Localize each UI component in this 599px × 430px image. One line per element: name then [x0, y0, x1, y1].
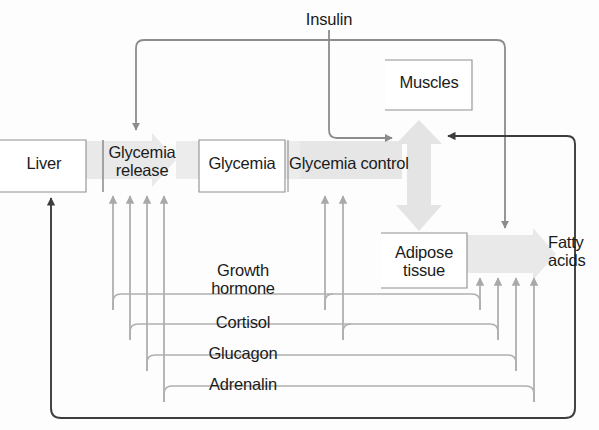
diagram-graphics — [0, 0, 599, 430]
node-label-glycemia-control: Glycemia control — [289, 155, 415, 173]
node-label-glycemia: Glycemia — [199, 155, 285, 173]
hormone-label-insulin: Insulin — [289, 11, 369, 29]
node-label-liver: Liver — [2, 155, 86, 173]
hormone-label-growth-hormone: Growth hormone — [183, 262, 303, 298]
node-label-muscles: Muscles — [386, 74, 472, 92]
band-glycemia-control-vertical — [396, 120, 442, 231]
node-label-fatty-acids: Fatty acids — [548, 234, 599, 270]
node-label-adipose-tissue: Adipose tissue — [381, 244, 467, 280]
arrows-to-glycemia-release — [113, 196, 164, 402]
arrows-to-glycemia-control — [325, 196, 343, 340]
node-label-glycemia-release: Glycemia release — [99, 144, 185, 180]
hormone-branch-to-control — [325, 294, 351, 340]
arrows-to-fatty-acids — [480, 278, 534, 402]
hormone-label-cortisol: Cortisol — [183, 314, 303, 332]
hormone-label-glucagon: Glucagon — [183, 345, 303, 363]
diagram-canvas: Liver Glycemia release Glycemia Glycemia… — [0, 0, 599, 430]
hormone-label-adrenalin: Adrenalin — [183, 376, 303, 394]
